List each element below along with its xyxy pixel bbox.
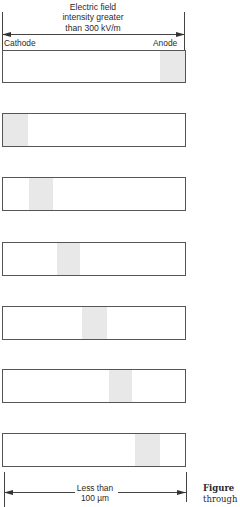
high-field-region [57, 243, 81, 275]
dimension-line-1: Less than [2, 483, 188, 493]
top-dimension-arrow [3, 34, 184, 35]
arrowhead-right-icon [176, 31, 185, 38]
drift-bar-4 [2, 242, 186, 276]
high-field-region [160, 51, 185, 82]
title-line-3: than 300 kV/m [0, 23, 186, 33]
anode-label: Anode [153, 38, 177, 48]
caption-figure-word: Figure [203, 483, 234, 493]
dimension-line-2: 100 µm [2, 493, 188, 503]
figure-caption: Figure through [203, 483, 237, 505]
drift-bar-5 [2, 306, 186, 340]
drift-bar-7 [2, 433, 186, 467]
dimension-label: Less than 100 µm [2, 483, 188, 503]
drift-bar-1 [2, 50, 186, 83]
drift-bar-2 [2, 113, 186, 147]
high-field-region [82, 307, 107, 339]
drift-bar-6 [2, 369, 186, 403]
high-field-region [29, 178, 53, 210]
caption-line-2: through [203, 494, 237, 505]
field-intensity-label: Electric field intensity greater than 30… [0, 2, 186, 33]
cathode-label: Cathode [4, 38, 36, 48]
drift-bar-3 [2, 177, 186, 211]
high-field-region [3, 114, 28, 146]
title-line-2: intensity greater [0, 12, 186, 22]
high-field-region [135, 434, 160, 466]
arrowhead-left-icon [2, 31, 11, 38]
high-field-region [109, 370, 133, 402]
title-line-1: Electric field [0, 2, 186, 12]
